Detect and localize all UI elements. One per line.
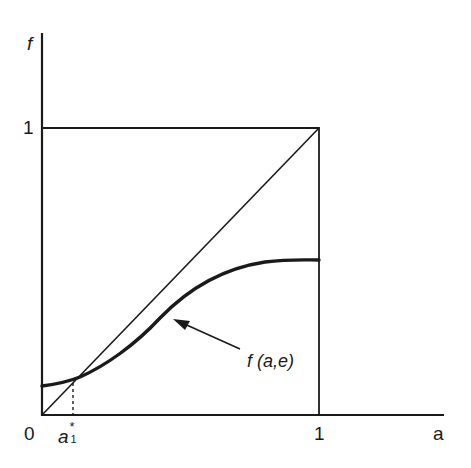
y-tick-one: 1 (23, 118, 34, 137)
arrowhead-icon (173, 319, 190, 330)
diagram-canvas (0, 0, 471, 468)
diagonal-line (42, 128, 319, 415)
annotation-arrow (180, 322, 240, 349)
a-star-label: a*1 (58, 424, 79, 446)
x-axis-label: a (433, 424, 444, 443)
x-tick-one: 1 (314, 424, 325, 443)
y-axis-label: f (27, 34, 32, 53)
curve-label: f (a,e) (247, 352, 294, 370)
x-tick-zero: 0 (24, 424, 35, 443)
a-star-base: a (58, 426, 69, 447)
a-star-sub: 1 (71, 434, 77, 445)
a-star-sup: * (70, 420, 75, 433)
